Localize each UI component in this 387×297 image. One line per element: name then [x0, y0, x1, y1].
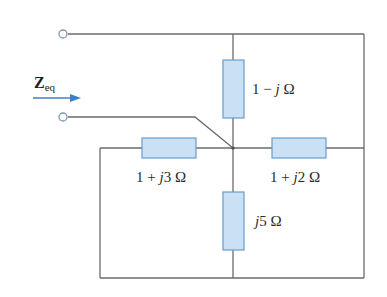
impedance-top-label: 1 − j Ω — [252, 81, 295, 97]
impedance-left — [142, 138, 196, 158]
terminal-top — [59, 30, 67, 38]
impedance-left-label: 1 + j3 Ω — [136, 169, 186, 185]
zeq-label: Zeq — [34, 74, 56, 93]
impedance-bottom-label: j5 Ω — [253, 213, 282, 229]
impedance-top — [223, 60, 244, 118]
terminal-bottom — [59, 113, 67, 121]
zeq-arrow-icon — [70, 94, 81, 102]
impedance-bottom — [223, 192, 244, 250]
circuit-diagram: Zeq 1 − j Ω 1 + j3 Ω 1 + j2 Ω j5 Ω — [0, 0, 387, 297]
impedance-right-label: 1 + j2 Ω — [270, 169, 320, 185]
junction-node — [231, 146, 234, 149]
impedance-right — [272, 138, 326, 158]
